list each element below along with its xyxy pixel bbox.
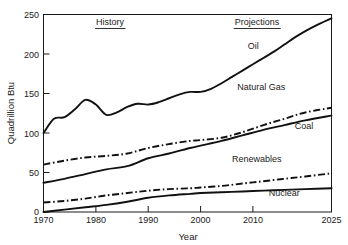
y-tick-label-250: 250 xyxy=(24,10,39,20)
annotation-projections-label: Projections xyxy=(235,17,280,27)
x-tick-label-1990: 1990 xyxy=(138,215,158,225)
annotation-history-label: History xyxy=(96,17,125,27)
series-labels: OilNatural GasCoalRenewablesNuclear xyxy=(232,41,313,198)
series-label-coal: Coal xyxy=(295,121,314,131)
series-label-renewables: Renewables xyxy=(232,154,282,164)
series-line-oil xyxy=(44,18,332,133)
x-tick-label-2010: 2010 xyxy=(243,215,263,225)
x-tick-label-1970: 1970 xyxy=(33,215,53,225)
y-axis-tick-labels: 250 200 150 100 50 0 xyxy=(24,10,39,217)
y-tick-label-50: 50 xyxy=(29,168,39,178)
series-label-natural-gas: Natural Gas xyxy=(237,82,286,92)
series-line-natural-gas xyxy=(44,108,332,165)
series-label-oil: Oil xyxy=(248,41,259,51)
annotation-history: History xyxy=(95,17,126,29)
y-tick-label-100: 100 xyxy=(24,129,39,139)
plot-frame xyxy=(44,15,332,213)
y-axis-title: Quadrillion Btu xyxy=(5,82,16,144)
x-tick-label-2025: 2025 xyxy=(321,215,341,225)
y-tick-label-150: 150 xyxy=(24,89,39,99)
energy-consumption-chart: 250 200 150 100 50 0 Quadrillion Btu 197… xyxy=(0,0,348,245)
x-tick-label-1980: 1980 xyxy=(86,215,106,225)
x-axis-tick-labels: 1970 1980 1990 2000 2010 2025 xyxy=(33,215,341,225)
x-tick-label-2000: 2000 xyxy=(191,215,211,225)
series-curves xyxy=(44,18,332,212)
annotation-projections: Projections xyxy=(234,17,281,29)
series-label-nuclear: Nuclear xyxy=(269,188,300,198)
x-axis-title: Year xyxy=(178,231,197,242)
y-tick-label-200: 200 xyxy=(24,50,39,60)
chart-canvas: 250 200 150 100 50 0 Quadrillion Btu 197… xyxy=(0,0,348,245)
series-line-coal xyxy=(44,116,332,183)
